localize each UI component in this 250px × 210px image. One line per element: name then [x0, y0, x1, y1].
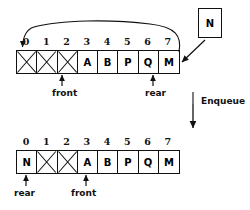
queue-enqueue-diagram: 01234567 ABPQM N front rear Enqueue 0123… [0, 0, 250, 210]
incoming-element-arrow [182, 40, 205, 62]
wraparound-curve [23, 21, 180, 52]
diagram-arrows-layer [0, 0, 250, 210]
